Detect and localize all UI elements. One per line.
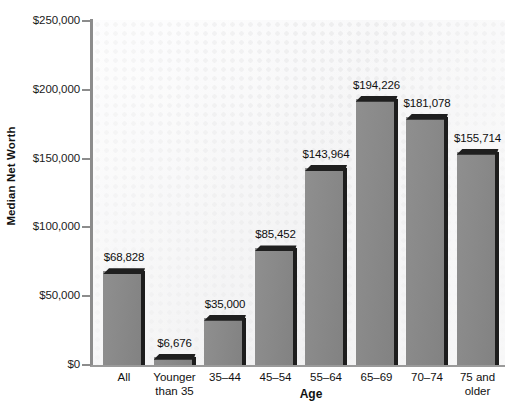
y-axis-tick-label: $250,000 [4,14,80,26]
bar-top-bevel [204,315,246,321]
bar-top-bevel [154,354,196,360]
bar[interactable] [457,20,499,366]
bar[interactable] [305,20,347,366]
bar-value-label: $85,452 [255,228,296,240]
bar-value-label: $35,000 [205,298,246,310]
y-axis-line [90,19,93,367]
y-axis-title: Median Net Worth [5,116,17,236]
bar-body [103,271,145,366]
x-axis-title: Age [281,387,341,401]
bar-body [204,318,246,366]
y-axis-tick-label: $0 [4,358,80,370]
bar[interactable] [103,20,145,366]
bar[interactable] [204,20,246,366]
y-axis-tick [82,20,91,22]
bar-top-bevel [305,165,347,171]
bar-value-label: $181,078 [404,97,451,109]
x-axis-line [90,365,505,367]
bar-top-bevel [103,268,145,274]
bar[interactable] [356,20,398,366]
plot-area: $68,828$6,676$35,000$85,452$143,964$194,… [93,20,505,366]
bar-body [457,152,499,366]
y-axis-tick [82,89,91,91]
bar-top-bevel [457,149,499,155]
bar-top-bevel [406,114,448,120]
x-axis-category-label: 75 and older [443,370,513,398]
y-axis-tick [82,226,91,228]
y-axis-tick [82,158,91,160]
y-axis-tick [82,364,91,366]
bar-chart: $68,828$6,676$35,000$85,452$143,964$194,… [0,0,524,418]
bar-value-label: $143,964 [303,148,350,160]
bar-top-bevel [255,245,297,251]
bar-value-label: $6,676 [157,337,191,349]
bar-value-label: $194,226 [353,79,400,91]
bar[interactable] [406,20,448,366]
bar-body [305,168,347,366]
bar-body [356,99,398,366]
bar-value-label: $68,828 [104,251,145,263]
y-axis-tick [82,295,91,297]
bar-body [406,117,448,366]
bar-top-bevel [356,96,398,102]
y-axis-tick-label: $50,000 [4,289,80,301]
bar[interactable] [154,20,196,366]
bar[interactable] [255,20,297,366]
y-axis-tick-label: $200,000 [4,83,80,95]
bar-value-label: $155,714 [454,132,501,144]
bar-body [255,248,297,366]
